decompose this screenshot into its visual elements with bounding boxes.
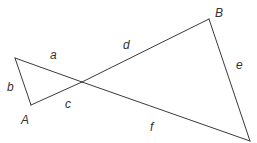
segment-a	[15, 58, 82, 82]
segment-c	[31, 82, 82, 105]
label-a: a	[50, 48, 57, 62]
segment-e	[209, 19, 250, 141]
label-f: f	[150, 120, 155, 134]
label-b: b	[7, 80, 14, 94]
segment-f	[82, 82, 250, 141]
label-e: e	[236, 58, 243, 72]
labels: a b c d e f A B	[7, 6, 243, 134]
segment-d	[82, 19, 209, 82]
diagram-canvas: a b c d e f A B	[0, 0, 257, 143]
label-vertex-B: B	[215, 6, 223, 20]
segment-b	[15, 58, 31, 105]
label-c: c	[65, 97, 71, 111]
label-vertex-A: A	[20, 113, 29, 127]
segments	[15, 19, 250, 141]
label-d: d	[123, 38, 130, 52]
